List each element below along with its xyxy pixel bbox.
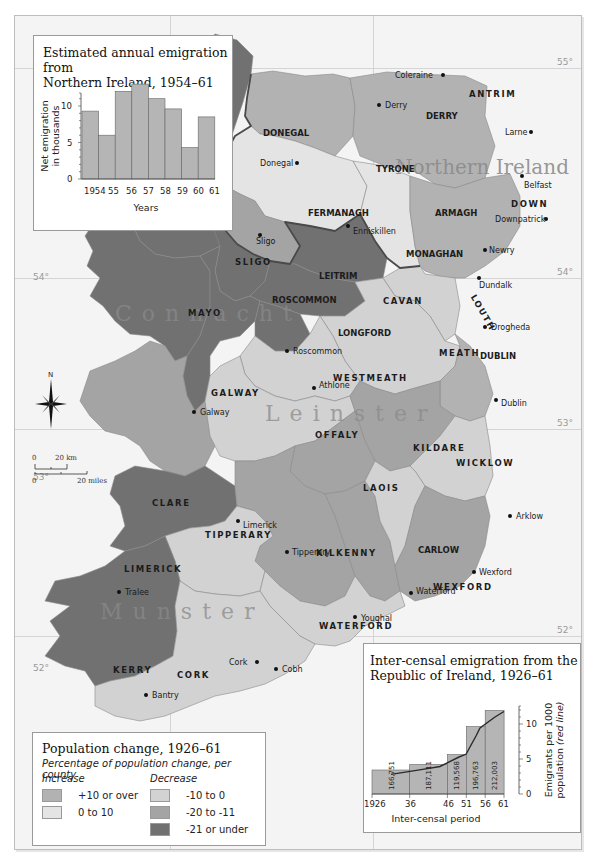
county-label: CAVAN [383,296,423,306]
legend-swatch [150,823,170,836]
svg-text:Inter-censal period: Inter-censal period [392,813,481,824]
svg-text:N: N [48,371,53,379]
town-label: Derry [385,101,408,110]
town-label: Donegal [260,159,293,168]
legend-increase-heading: Increase [42,773,85,784]
county-label: MONAGHAN [406,249,463,259]
town-label: Dundalk [479,281,513,290]
county-label: TYRONE [376,164,415,174]
county-label: MEATH [439,348,480,358]
town-label: Dublin [501,399,527,408]
county-label: ARMAGH [435,208,477,218]
county-label: LEITRIM [319,271,357,281]
map-frame: 55° 54° 54° 53° 53° 52° 52° [14,15,582,850]
svg-text:population (red line): population (red line) [554,702,565,799]
county-label: GALWAY [211,388,260,398]
svg-text:10: 10 [526,719,537,729]
legend-swatch [42,806,62,819]
legend-title: Population change, 1926–61 [42,741,221,756]
legend-item: -20 to -11 [150,806,235,819]
svg-text:10: 10 [61,101,72,111]
legend-swatch [42,789,62,802]
roi-emigration-chart-panel: Inter-censal emigration from the Republi… [363,643,581,833]
town-label: Larne [505,128,528,137]
ni-emigration-bar-chart: 0 5 10 Net emigration in thousands [34,36,232,230]
town-label: Coleraine [395,71,433,80]
town-label: Tipperary [291,548,330,557]
legend-item: -10 to 0 [150,789,225,802]
legend-item: -21 or under [150,823,248,836]
town-label: Athlone [319,381,350,390]
county-label: LIMERICK [124,564,182,574]
province-label-munster: Munster [100,599,265,624]
town-label: Galway [200,408,230,417]
county-label: CARLOW [418,545,460,555]
scale-km-start: 0 [32,454,36,462]
legend-label: -10 to 0 [186,790,225,801]
county-label: FERMANAGH [308,208,369,218]
svg-text:60: 60 [193,186,204,196]
county-label: WICKLOW [456,458,514,468]
county-label: CLARE [152,498,191,508]
roi-emigration-bar-chart: 166,751 187,111 119,568 196,763 212,003 … [364,644,580,832]
town-label: Newry [489,246,515,255]
county-label: DUBLIN [480,351,516,361]
svg-text:5: 5 [526,754,531,764]
svg-text:36: 36 [405,799,416,809]
svg-text:Years: Years [132,202,158,213]
legend-decrease-heading: Decrease [150,773,197,784]
town-label: Bantry [152,691,179,700]
town-label: Sligo [256,237,276,246]
town-label: Enniskillen [353,227,396,236]
town-label: Drogheda [491,323,530,332]
svg-text:58: 58 [160,186,171,196]
svg-text:0: 0 [526,789,531,799]
north-arrow-compass-icon: N [35,371,67,429]
county-label: LAOIS [363,483,400,493]
legend-label: -20 to -11 [186,807,235,818]
legend-item: +10 or over [42,789,138,802]
svg-text:59: 59 [177,186,188,196]
town-label: Downpatrick [495,215,546,224]
svg-text:196,763: 196,763 [472,761,480,790]
county-label: ROSCOMMON [272,295,337,305]
town-label: Limerick [243,521,277,530]
svg-text:56: 56 [480,799,491,809]
svg-text:166,751: 166,751 [388,761,396,790]
town-label: Roscommon [293,347,342,356]
legend-swatch [150,806,170,819]
svg-text:0: 0 [67,174,72,184]
svg-text:1954: 1954 [84,186,106,196]
scale-bar [35,464,87,474]
scale-miles-label: 20 miles [77,477,107,485]
county-label: KERRY [113,665,152,675]
town-label: Arklow [516,512,544,521]
province-label-leinster: Leinster [265,401,438,426]
town-label: Youghal [360,614,392,623]
town-label: Cobh [282,665,303,674]
legend-item: 0 to 10 [42,806,113,819]
town-label: Cork [229,658,248,667]
legend-label: -21 or under [186,824,248,835]
county-label: TIPPERARY [205,530,272,540]
region-label-northern-ireland: Northern Ireland [395,155,569,179]
legend-label: +10 or over [78,790,138,801]
svg-text:Emigrants per 1000: Emigrants per 1000 [543,703,554,797]
town-label: Wexford [479,568,512,577]
county-label: ANTRIM [469,89,516,99]
svg-text:61: 61 [209,186,220,196]
town-label: Belfast [524,181,552,190]
town-label: Waterford [416,587,456,596]
county-label: SLIGO [235,257,272,267]
svg-text:46: 46 [443,799,454,809]
scale-miles-start: 0 [32,477,36,485]
county-label: DERRY [426,111,458,121]
svg-text:Net emigration: Net emigration [39,100,50,171]
svg-text:187,111: 187,111 [425,761,433,790]
svg-text:in thousands: in thousands [50,105,61,166]
scale-km-label: 20 km [55,454,77,462]
county-label: DONEGAL [263,128,310,138]
county-label: CORK [177,670,210,680]
legend-label: 0 to 10 [78,807,113,818]
county-label: DOWN [511,199,548,209]
